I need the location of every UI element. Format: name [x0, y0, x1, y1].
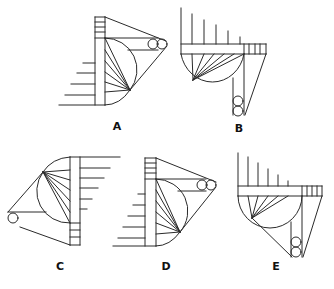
diagram-canvas — [0, 0, 334, 289]
figure-e — [238, 153, 322, 257]
roller-icon — [291, 237, 301, 247]
figure-b — [181, 8, 266, 116]
roller-icon — [233, 96, 243, 106]
option-label-c: C — [50, 261, 70, 273]
option-label-a: A — [107, 121, 127, 133]
option-label-d: D — [156, 261, 176, 273]
option-label-b: B — [229, 123, 249, 135]
roller-icon — [291, 247, 301, 257]
figure-d — [113, 158, 216, 246]
figure-c — [8, 157, 120, 245]
figure-a — [59, 17, 167, 105]
roller-icon — [233, 106, 243, 116]
option-label-e: E — [266, 261, 286, 273]
roller-icon — [8, 213, 18, 223]
